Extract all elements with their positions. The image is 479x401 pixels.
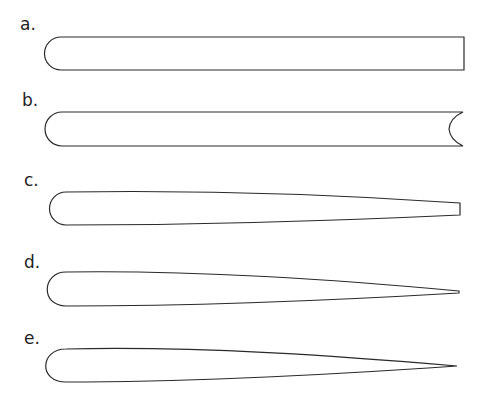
shape-a <box>45 37 465 70</box>
shapes-diagram <box>0 0 479 401</box>
shape-e <box>46 348 457 382</box>
shape-d <box>47 272 459 306</box>
shape-b <box>45 112 463 146</box>
shape-c <box>50 191 461 225</box>
